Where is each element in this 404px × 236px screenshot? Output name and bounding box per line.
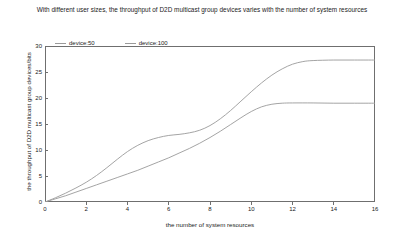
x-tick-label: 2 xyxy=(85,206,88,212)
chart-figure: With different user sizes, the throughpu… xyxy=(0,0,404,236)
series-line-device-50 xyxy=(45,103,375,202)
chart-curves xyxy=(45,46,375,202)
x-tick-mark xyxy=(127,202,128,205)
y-tick-mark xyxy=(45,150,48,151)
x-tick-mark xyxy=(210,202,211,205)
x-axis-ticks: 0246810121416 xyxy=(0,206,404,218)
x-tick-label: 16 xyxy=(372,206,379,212)
y-tick-mark xyxy=(45,124,48,125)
x-tick-label: 12 xyxy=(289,206,296,212)
x-tick-label: 0 xyxy=(43,206,46,212)
legend-line-icon xyxy=(125,43,136,44)
x-tick-mark xyxy=(292,202,293,205)
legend-line-icon xyxy=(55,43,66,44)
y-axis-label-holder: the throughput of D2D multicast group de… xyxy=(10,0,22,236)
y-axis-label: the throughput of D2D multicast group de… xyxy=(25,42,32,202)
x-axis-label: the number of system resources xyxy=(45,221,375,228)
y-tick-mark xyxy=(45,176,48,177)
x-tick-label: 8 xyxy=(208,206,211,212)
x-tick-mark xyxy=(168,202,169,205)
series-line-device-100 xyxy=(45,60,375,202)
x-tick-label: 14 xyxy=(330,206,337,212)
x-tick-mark xyxy=(86,202,87,205)
y-tick-mark xyxy=(45,72,48,73)
x-tick-label: 6 xyxy=(167,206,170,212)
x-tick-label: 10 xyxy=(248,206,255,212)
chart-title: With different user sizes, the throughpu… xyxy=(30,5,374,14)
y-tick-mark xyxy=(45,98,48,99)
x-tick-label: 4 xyxy=(126,206,129,212)
x-tick-mark xyxy=(333,202,334,205)
x-tick-mark xyxy=(251,202,252,205)
y-tick-mark xyxy=(45,46,48,47)
